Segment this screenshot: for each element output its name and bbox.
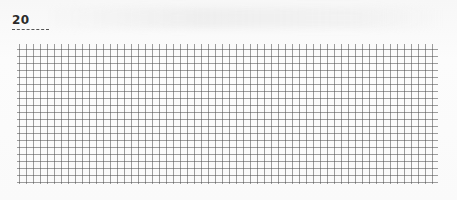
notebook-page: 20 [0,0,457,200]
bleed-through-text [40,8,440,28]
graph-grid [17,44,438,184]
page-number: 20 [12,13,30,27]
page-number-underline [12,29,49,30]
